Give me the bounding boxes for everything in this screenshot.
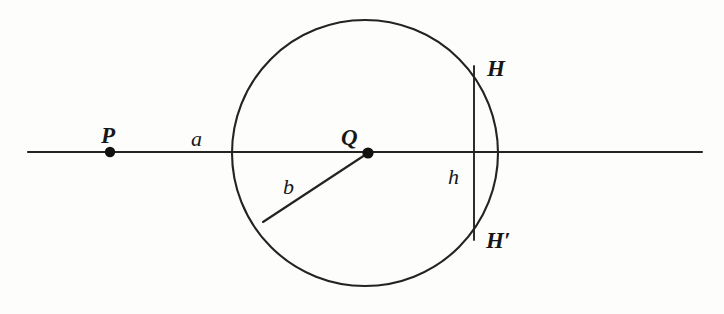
label-point-p: P	[101, 124, 115, 147]
label-point-q: Q	[341, 126, 358, 149]
point-marker-p	[105, 147, 115, 157]
label-segment-h: h	[448, 166, 459, 188]
label-point-h: H	[487, 57, 505, 80]
radius-segment-b	[263, 153, 368, 222]
diagram-canvas	[0, 0, 724, 314]
point-marker-q	[362, 147, 373, 158]
label-segment-a: a	[191, 128, 202, 150]
label-segment-b: b	[283, 176, 294, 198]
label-point-h-prime: H′	[486, 229, 510, 252]
geometry-figure: P Q H H′ a b h	[0, 0, 724, 314]
